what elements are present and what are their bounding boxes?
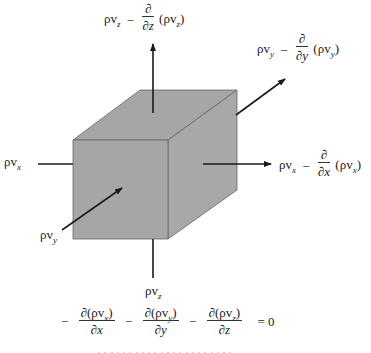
label-sub: y <box>53 235 57 245</box>
num-prefix: ∂( <box>145 305 156 320</box>
label-back-right-flux: ρvy − ∂ ∂y (ρvy) <box>257 38 339 62</box>
minus-sign: − <box>127 14 134 27</box>
flux-arrow-y-out <box>236 79 285 115</box>
num-sub: y <box>168 313 172 323</box>
deriv-denominator: ∂x <box>318 163 330 178</box>
equation-term-x: ∂(ρvx) ∂x <box>79 306 115 336</box>
paren-sub: x <box>353 165 357 175</box>
term-denominator: ∂z <box>207 321 243 336</box>
label-sub: z <box>158 291 162 301</box>
paren-close: ) <box>357 157 361 172</box>
paren-base: ρv <box>340 157 353 172</box>
label-top-flux: ρvz − ∂ ∂z (ρvz) <box>104 8 184 32</box>
num-suffix: ) <box>236 305 240 320</box>
term-denominator: ∂x <box>79 321 115 336</box>
label-base: ρv <box>279 157 292 172</box>
deriv-numerator: ∂ <box>296 32 308 47</box>
label-sub: y <box>270 49 274 59</box>
label-front-flux: ρvy <box>40 228 57 241</box>
minus-sign: − <box>302 160 309 173</box>
num-prefix: ∂( <box>209 305 220 320</box>
deriv-denominator: ∂z <box>142 17 153 32</box>
equation-term-y: ∂(ρvy) ∂y <box>143 306 179 336</box>
label-base: ρv <box>4 154 17 169</box>
derivative: ∂ ∂z <box>142 2 153 32</box>
term-denominator: ∂y <box>143 321 179 336</box>
paren-close: ) <box>180 11 184 26</box>
term-numerator: ∂(ρvz) <box>207 306 243 321</box>
equation-sign: − <box>61 315 68 328</box>
num-base: ρv <box>91 305 104 320</box>
deriv-numerator: ∂ <box>318 148 330 163</box>
equation-sign: − <box>189 315 196 328</box>
num-base: ρv <box>219 305 232 320</box>
label-base: ρv <box>257 41 270 56</box>
label-sub: x <box>17 162 21 172</box>
label-sub: x <box>292 165 296 175</box>
label-base: ρv <box>145 283 158 298</box>
clipped-caption: ᐧ ᐧ ᐧ ᐧ ᐧ ᐧ ᐧ ᐧ ᐧ ᐧ ᐧ ᐧ ᐧ ᐧ ᐧ ᐧ ᐧ ᐧ ᐧ ᐧ … <box>97 347 231 353</box>
label-base: ρv <box>104 11 117 26</box>
label-bottom-flux: ρvz <box>145 284 162 297</box>
num-sub: x <box>104 313 108 323</box>
num-base: ρv <box>155 305 168 320</box>
equation-term-z: ∂(ρvz) ∂z <box>207 306 243 336</box>
equation-rhs: = 0 <box>257 315 274 328</box>
num-sub: z <box>232 313 236 323</box>
equation-sign: − <box>125 315 132 328</box>
label-base: ρv <box>40 227 53 242</box>
term-numerator: ∂(ρvy) <box>143 306 179 321</box>
paren-sub: y <box>331 49 335 59</box>
num-prefix: ∂( <box>81 305 92 320</box>
paren-close: ) <box>335 41 339 56</box>
label-left-flux: ρvx <box>4 155 21 168</box>
minus-sign: − <box>280 44 287 57</box>
derivative: ∂ ∂y <box>296 32 308 62</box>
continuity-equation: − ∂(ρvx) ∂x − ∂(ρvy) ∂y − ∂(ρvz) ∂z = 0 <box>56 306 279 336</box>
num-suffix: ) <box>172 305 176 320</box>
deriv-numerator: ∂ <box>142 2 153 17</box>
term-numerator: ∂(ρvx) <box>79 306 115 321</box>
label-right-flux: ρvx − ∂ ∂x (ρvx) <box>279 154 361 178</box>
paren-sub: z <box>176 19 180 29</box>
derivative: ∂ ∂x <box>318 148 330 178</box>
paren-base: ρv <box>163 11 176 26</box>
num-suffix: ) <box>108 305 112 320</box>
deriv-denominator: ∂y <box>296 47 308 62</box>
paren-base: ρv <box>318 41 331 56</box>
label-sub: z <box>117 19 121 29</box>
